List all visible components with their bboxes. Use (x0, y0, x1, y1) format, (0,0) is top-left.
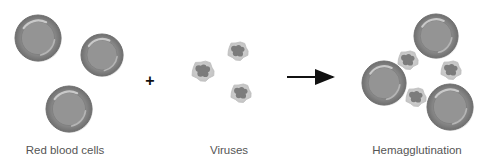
virus-icon (192, 61, 214, 81)
virus-icon (406, 88, 426, 106)
red-blood-cell-icon (15, 15, 62, 62)
red-blood-cell-icon (81, 34, 124, 77)
virus-icon (441, 61, 461, 79)
red-blood-cell-icon (414, 14, 459, 59)
red-blood-cell-icon (427, 84, 474, 131)
virus-icon (231, 84, 251, 102)
hemagglutination-diagram: + Red blood cells Viruses Hemagglutinati… (0, 0, 490, 166)
red-blood-cell-icon (46, 86, 93, 133)
red-blood-cell-icon (362, 61, 407, 106)
diagram-artwork (0, 0, 490, 166)
red-blood-cells-layer (15, 15, 124, 133)
plus-sign-icon: + (145, 73, 154, 89)
virus-icon (398, 51, 418, 69)
virus-icon (228, 42, 248, 60)
label-hemagglutination: Hemagglutination (372, 144, 462, 156)
viruses-layer (192, 42, 251, 102)
label-viruses: Viruses (210, 144, 248, 156)
label-red-blood-cells: Red blood cells (26, 144, 105, 156)
